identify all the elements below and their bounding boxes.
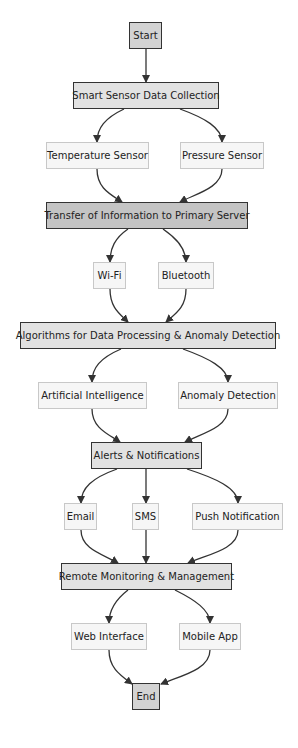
node-artificial-intelligence: Artificial Intelligence — [38, 382, 147, 409]
edge-alerts-email — [81, 469, 117, 503]
node-push-notification: Push Notification — [192, 503, 283, 530]
edge-bluetooth-algorithms — [166, 289, 186, 322]
edge-mobile-end — [161, 650, 210, 684]
edges-layer — [0, 0, 298, 748]
edge-alerts-push — [187, 469, 238, 503]
edge-temperature-transfer — [97, 169, 122, 202]
node-anomaly-detection: Anomaly Detection — [178, 382, 278, 409]
node-sms: SMS — [132, 503, 159, 530]
node-temperature-sensor: Temperature Sensor — [46, 142, 149, 169]
node-end: End — [132, 683, 160, 710]
node-bluetooth: Bluetooth — [158, 262, 214, 289]
edge-push-remote — [188, 530, 238, 563]
edge-web-end — [109, 650, 132, 684]
edge-transfer-wifi — [110, 229, 128, 262]
edge-algorithms-anomaly — [183, 349, 228, 382]
node-start: Start — [129, 22, 162, 49]
edge-ai-alerts — [92, 409, 120, 442]
node-remote-monitoring: Remote Monitoring & Management — [61, 563, 232, 590]
edge-smart-temperature — [97, 109, 124, 142]
edge-algorithms-ai — [92, 349, 121, 382]
edge-email-remote — [81, 530, 118, 563]
edge-remote-web — [109, 590, 128, 623]
edge-wifi-algorithms — [110, 289, 128, 322]
edge-transfer-bluetooth — [163, 229, 186, 262]
edge-remote-mobile — [175, 590, 210, 623]
node-web-interface: Web Interface — [71, 623, 147, 650]
edge-smart-pressure — [180, 109, 222, 142]
node-email: Email — [64, 503, 97, 530]
node-alerts-notifications: Alerts & Notifications — [91, 442, 202, 469]
node-transfer-to-primary-server: Transfer of Information to Primary Serve… — [46, 202, 248, 229]
edge-pressure-transfer — [180, 169, 222, 202]
node-algorithms: Algorithms for Data Processing & Anomaly… — [20, 322, 276, 349]
node-smart-sensor-data-collection: Smart Sensor Data Collection — [73, 82, 219, 109]
node-mobile-app: Mobile App — [179, 623, 241, 650]
node-pressure-sensor: Pressure Sensor — [180, 142, 264, 169]
edge-anomaly-alerts — [185, 409, 228, 442]
node-wifi: Wi-Fi — [93, 262, 126, 289]
flowchart: Start Smart Sensor Data Collection Tempe… — [0, 0, 298, 748]
